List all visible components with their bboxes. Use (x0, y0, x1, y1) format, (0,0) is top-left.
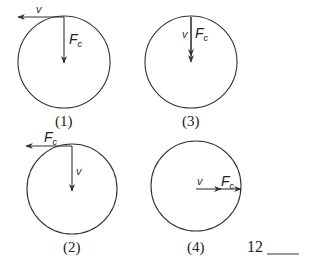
question-number: 12 (247, 238, 263, 255)
panel-2: Fc v (2) (26, 129, 117, 256)
force-label: Fc (195, 25, 209, 43)
force-label: Fc (44, 129, 58, 147)
velocity-label: v (182, 28, 189, 40)
panel-caption: (1) (55, 113, 73, 130)
velocity-label: v (197, 175, 204, 187)
panel-4: v Fc (4) (151, 141, 241, 256)
circular-motion-diagram: v Fc (1) v Fc (3) Fc v (2) v Fc (4) 12 (0, 0, 311, 271)
panel-caption: (4) (187, 239, 205, 256)
panel-1: v Fc (1) (18, 3, 110, 130)
panel-caption: (3) (182, 113, 200, 130)
velocity-label: v (36, 3, 43, 15)
panel-3: v Fc (3) (145, 16, 237, 130)
panel-caption: (2) (63, 239, 81, 256)
question-answer: 12 (247, 238, 299, 255)
force-label: Fc (221, 173, 235, 191)
force-label: Fc (69, 31, 83, 49)
velocity-label: v (76, 165, 83, 177)
